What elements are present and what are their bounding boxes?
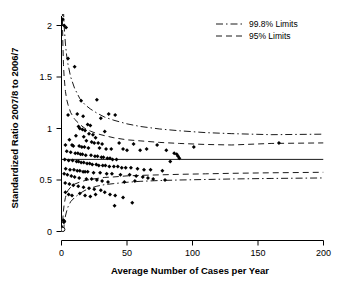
data-point [63, 190, 67, 194]
data-point [113, 193, 117, 197]
data-point [74, 134, 78, 138]
data-point [122, 180, 126, 184]
data-point [135, 167, 139, 171]
data-point [62, 172, 66, 176]
data-point [105, 172, 109, 176]
data-point [91, 133, 95, 137]
chart-canvas: 0 0.5 1 1.5 2 0 50 100 150 200 Average N… [0, 0, 339, 292]
data-point [94, 192, 98, 196]
data-point [87, 132, 91, 136]
data-point [103, 190, 107, 194]
data-point [65, 173, 69, 177]
data-point [112, 165, 116, 169]
data-point [66, 113, 70, 117]
data-point [78, 169, 82, 173]
data-point [103, 130, 107, 134]
data-point [107, 112, 111, 116]
data-point [168, 159, 172, 163]
data-point [67, 192, 71, 196]
data-point [130, 201, 134, 205]
data-point [104, 147, 108, 151]
x-tick-label-50: 50 [122, 248, 132, 258]
data-point [73, 175, 77, 179]
data-point [78, 191, 82, 195]
data-point [98, 171, 102, 175]
data-point [149, 168, 153, 172]
data-point [192, 145, 196, 149]
data-point [134, 174, 138, 178]
data-point [63, 143, 67, 147]
data-point [94, 136, 98, 140]
data-point [120, 166, 124, 170]
data-point [88, 194, 92, 198]
data-point [110, 172, 114, 176]
data-point [92, 171, 96, 175]
data-point [133, 179, 137, 183]
y-axis-tick-labels: 0 0.5 1 1.5 2 [39, 21, 52, 237]
data-point [96, 154, 100, 158]
data-point [99, 188, 103, 192]
data-point [67, 182, 71, 186]
data-point [106, 180, 110, 184]
data-point [68, 168, 72, 172]
data-point [100, 179, 104, 183]
data-point [86, 146, 90, 150]
data-point [145, 147, 149, 151]
data-point [117, 141, 121, 145]
data-point [82, 145, 86, 149]
data-point [100, 142, 104, 146]
legend-label-95: 95% Limits [249, 31, 291, 41]
x-axis-tick-labels: 0 50 100 150 200 [59, 248, 331, 258]
data-point [125, 148, 129, 152]
data-point [81, 114, 85, 118]
data-point [79, 99, 83, 103]
data-point [76, 184, 80, 188]
data-point [164, 148, 168, 152]
x-axis-title: Average Number of Cases per Year [111, 265, 269, 276]
data-point [63, 181, 67, 185]
data-point [65, 149, 69, 153]
data-point [82, 135, 86, 139]
data-point [83, 193, 87, 197]
data-point [155, 143, 159, 147]
y-tick-label-1: 1 [47, 124, 52, 134]
data-point [113, 113, 117, 117]
data-point [103, 164, 107, 168]
data-point [121, 196, 125, 200]
x-tick-label-150: 150 [250, 248, 265, 258]
data-point [109, 147, 113, 151]
y-axis-ticks [57, 26, 62, 232]
data-point [108, 192, 112, 196]
data-point [118, 173, 122, 177]
data-point [70, 193, 74, 197]
data-point [63, 157, 67, 161]
data-point [163, 178, 167, 182]
data-point [95, 98, 99, 102]
data-point [69, 174, 73, 178]
data-point [84, 139, 88, 143]
data-point [64, 167, 68, 171]
data-point [89, 153, 93, 157]
x-tick-label-200: 200 [316, 248, 331, 258]
chart-legend: 99.8% Limits 95% Limits [216, 19, 298, 41]
data-point [72, 168, 76, 172]
data-point [86, 170, 90, 174]
data-point [138, 148, 142, 152]
data-point [69, 150, 73, 154]
data-point [277, 141, 281, 145]
y-axis-title: Standardized Ratio 2007/8 to 2006/7 [9, 47, 20, 208]
data-point [115, 157, 119, 161]
data-points-layer [61, 17, 281, 231]
legend-label-99-8: 99.8% Limits [249, 19, 298, 29]
data-point [82, 185, 86, 189]
limit-curve-lower-99-8 [63, 178, 323, 232]
data-point [124, 166, 128, 170]
data-point [116, 165, 120, 169]
funnel-plot-figure: 0 0.5 1 1.5 2 0 50 100 150 200 Average N… [0, 0, 339, 292]
data-point [160, 169, 164, 173]
y-tick-label-0.5: 0.5 [39, 175, 52, 185]
data-point [121, 147, 125, 151]
data-point [73, 65, 77, 69]
data-point [87, 186, 91, 190]
x-tick-label-0: 0 [59, 248, 64, 258]
